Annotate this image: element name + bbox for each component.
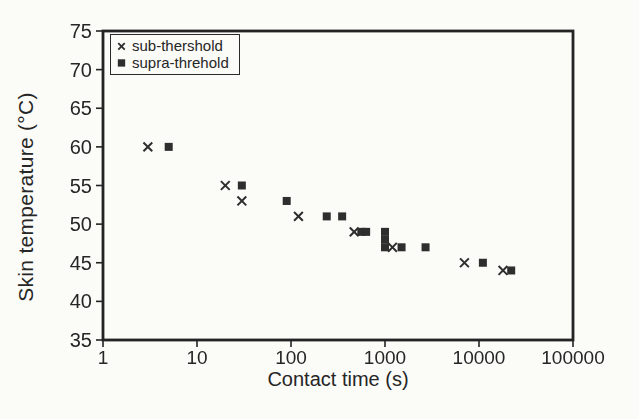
y-axis-tick-label: 65 bbox=[70, 97, 92, 119]
legend-item-supra-threshold: supra-threhold bbox=[116, 54, 236, 71]
figure: 354045505560657075110100100010000100000 … bbox=[0, 0, 639, 419]
y-axis-title: Skin temperature (°C) bbox=[14, 92, 38, 302]
x-marker-icon bbox=[116, 40, 127, 51]
data-point-x bbox=[388, 243, 397, 252]
data-point-x bbox=[460, 258, 469, 267]
legend-item-sub-threshold: sub-thershold bbox=[116, 37, 236, 54]
y-axis-tick-label: 70 bbox=[70, 59, 92, 81]
data-point-square bbox=[283, 197, 291, 205]
data-point-square bbox=[398, 243, 406, 251]
data-point-square bbox=[338, 212, 346, 220]
data-point-square bbox=[165, 143, 173, 151]
x-axis-tick-label: 1 bbox=[98, 347, 109, 368]
legend-label-sub-threshold: sub-thershold bbox=[132, 37, 223, 54]
data-points bbox=[143, 142, 515, 274]
data-point-square bbox=[238, 182, 246, 190]
data-point-square bbox=[422, 243, 430, 251]
data-point-square bbox=[323, 212, 331, 220]
plot-frame bbox=[103, 31, 573, 340]
y-axis-tick-label: 50 bbox=[70, 213, 92, 235]
data-point-square bbox=[381, 236, 389, 244]
data-point-square bbox=[479, 259, 487, 267]
data-point-square bbox=[381, 228, 389, 236]
x-axis-tick-label: 1000 bbox=[364, 347, 406, 368]
y-axis-tick-label: 35 bbox=[70, 329, 92, 351]
data-point-x bbox=[350, 227, 359, 236]
x-axis-title: Contact time (s) bbox=[267, 368, 408, 391]
data-point-square bbox=[381, 243, 389, 251]
data-point-x bbox=[237, 197, 246, 206]
square-marker-icon bbox=[116, 57, 127, 68]
y-axis-tick-label: 60 bbox=[70, 136, 92, 158]
x-axis-tick-label: 100000 bbox=[541, 347, 604, 368]
y-axis-tick-label: 55 bbox=[70, 175, 92, 197]
y-axis-tick-label: 45 bbox=[70, 252, 92, 274]
data-point-square bbox=[507, 266, 515, 274]
y-axis-tick-label: 75 bbox=[70, 20, 92, 42]
x-axis-tick-label: 100 bbox=[275, 347, 307, 368]
data-point-x bbox=[499, 266, 508, 275]
x-axis-tick-label: 10000 bbox=[453, 347, 506, 368]
legend-label-supra-threshold: supra-threhold bbox=[132, 54, 229, 71]
data-point-x bbox=[143, 142, 152, 151]
x-axis-tick-label: 10 bbox=[186, 347, 207, 368]
data-point-x bbox=[294, 212, 303, 221]
data-point-x bbox=[221, 181, 230, 190]
legend: sub-thershold supra-threhold bbox=[110, 34, 240, 75]
scatter-plot: 354045505560657075110100100010000100000 bbox=[0, 0, 639, 419]
data-point-square bbox=[362, 228, 370, 236]
y-axis-tick-label: 40 bbox=[70, 290, 92, 312]
